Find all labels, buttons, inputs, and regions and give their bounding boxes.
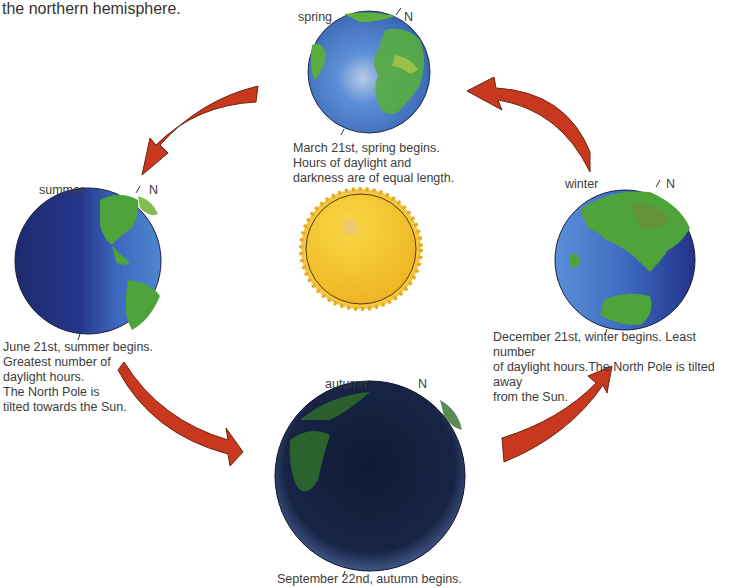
- spring-globe: [308, 8, 430, 135]
- sun-icon: [301, 189, 421, 309]
- winter-label: winter: [565, 177, 598, 191]
- north-label-summer: N: [149, 183, 158, 197]
- north-label-autumn: N: [418, 377, 427, 391]
- autumn-label: autumn: [325, 377, 367, 391]
- intro-text: the northern hemisphere.: [2, 0, 181, 18]
- summer-caption: June 21st, summer begins. Greatest numbe…: [3, 340, 153, 415]
- north-label-spring: N: [404, 10, 413, 24]
- winter-globe: [555, 180, 695, 335]
- autumn-globe: [275, 381, 465, 577]
- autumn-caption: September 22nd, autumn begins.: [277, 572, 462, 587]
- seasons-diagram: [0, 0, 740, 588]
- spring-caption: March 21st, spring begins. Hours of dayl…: [293, 141, 454, 186]
- spring-label: spring: [298, 10, 332, 24]
- north-label-winter: N: [666, 177, 675, 191]
- arrow-winter-to-spring: [467, 77, 590, 172]
- arrow-spring-to-summer: [142, 86, 258, 175]
- winter-caption: December 21st, winter begins. Least numb…: [493, 330, 740, 405]
- summer-globe: [15, 186, 161, 340]
- summer-label: summer: [39, 183, 84, 197]
